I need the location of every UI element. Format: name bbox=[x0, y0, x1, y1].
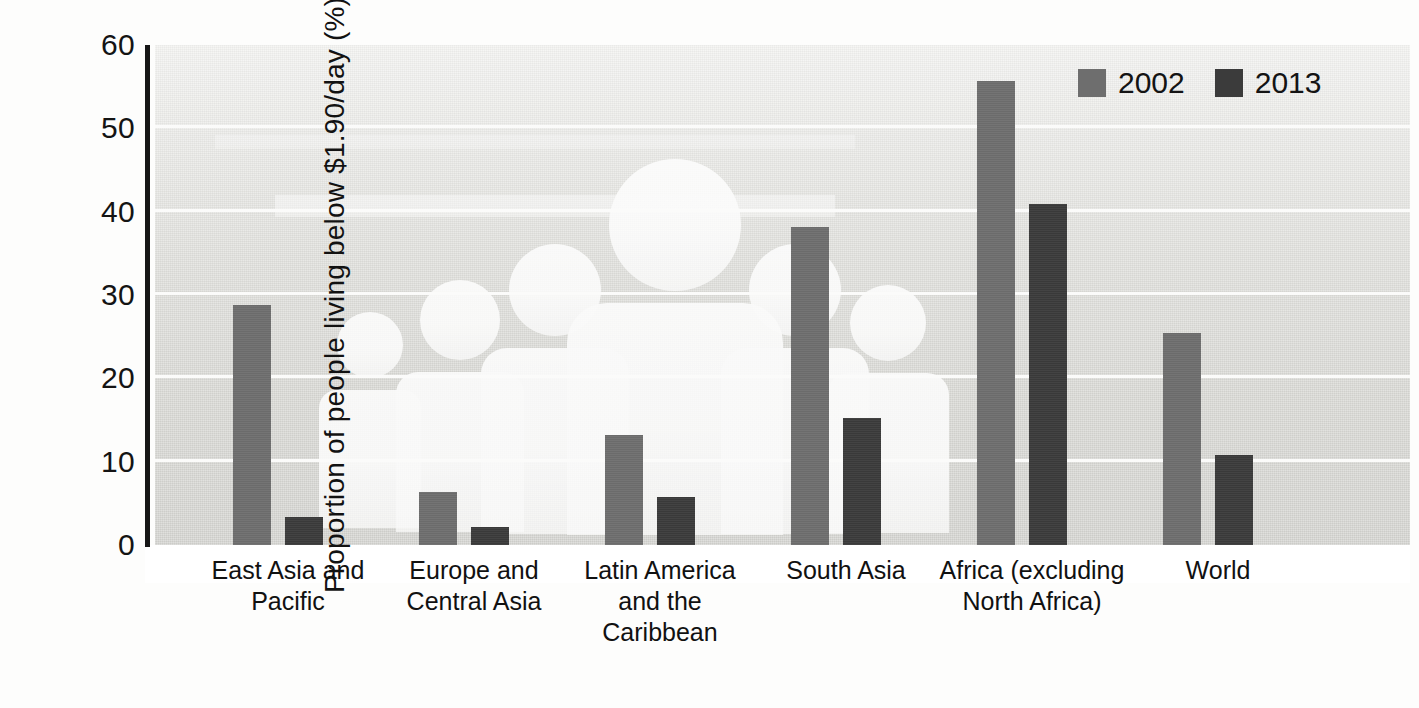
legend-label-2013: 2013 bbox=[1255, 66, 1322, 100]
bar-2002-east-asia-and-pacific bbox=[233, 305, 271, 545]
x-label-south-asia: South Asia bbox=[746, 555, 946, 586]
x-label-line: Africa (excluding bbox=[922, 555, 1142, 586]
y-tick-40: 40 bbox=[65, 195, 135, 229]
bar-2002-africa-excluding-north-africa bbox=[977, 81, 1015, 545]
x-label-line: Europe and bbox=[374, 555, 574, 586]
y-axis-line bbox=[145, 45, 150, 547]
x-label-line: North Africa) bbox=[922, 586, 1142, 617]
y-axis-title: Proportion of people living below $1.90/… bbox=[319, 0, 351, 593]
x-label-line: Pacific bbox=[188, 586, 388, 617]
x-label-line: Central Asia bbox=[374, 586, 574, 617]
x-label-line: South Asia bbox=[746, 555, 946, 586]
bar-2002-south-asia bbox=[791, 227, 829, 545]
y-tick-20: 20 bbox=[65, 361, 135, 395]
y-tick-0: 0 bbox=[65, 528, 135, 562]
x-axis-category-labels: East Asia and Pacific Europe and Central… bbox=[155, 555, 1410, 695]
bar-2013-latin-america-and-the-caribbean bbox=[657, 497, 695, 545]
bar-2013-world bbox=[1215, 455, 1253, 545]
y-tick-50: 50 bbox=[65, 111, 135, 145]
x-label-line: Latin America bbox=[560, 555, 760, 586]
x-label-line: World bbox=[1118, 555, 1318, 586]
legend-label-2002: 2002 bbox=[1118, 66, 1185, 100]
x-label-africa-excluding-north-africa: Africa (excluding North Africa) bbox=[922, 555, 1142, 617]
x-label-line: Caribbean bbox=[560, 617, 760, 648]
legend-item-2002[interactable]: 2002 bbox=[1078, 66, 1185, 100]
y-tick-30: 30 bbox=[65, 278, 135, 312]
legend-item-2013[interactable]: 2013 bbox=[1215, 66, 1322, 100]
bar-2002-latin-america-and-the-caribbean bbox=[605, 435, 643, 545]
x-label-world: World bbox=[1118, 555, 1318, 586]
x-label-line: East Asia and bbox=[188, 555, 388, 586]
x-label-east-asia-and-pacific: East Asia and Pacific bbox=[188, 555, 388, 617]
bar-2013-europe-and-central-asia bbox=[471, 527, 509, 545]
x-label-line: and the bbox=[560, 586, 760, 617]
bar-2013-africa-excluding-north-africa bbox=[1029, 204, 1067, 545]
x-label-latin-america-and-the-caribbean: Latin America and the Caribbean bbox=[560, 555, 760, 648]
bar-2002-europe-and-central-asia bbox=[419, 492, 457, 545]
chart-root: 60 50 40 30 20 10 0 Proportion of people… bbox=[0, 0, 1419, 708]
x-label-europe-and-central-asia: Europe and Central Asia bbox=[374, 555, 574, 617]
legend: 2002 2013 bbox=[1078, 66, 1322, 100]
y-tick-10: 10 bbox=[65, 445, 135, 479]
bar-2013-east-asia-and-pacific bbox=[285, 517, 323, 545]
bar-2002-world bbox=[1163, 333, 1201, 545]
bar-2013-south-asia bbox=[843, 418, 881, 545]
legend-swatch-2002-icon bbox=[1078, 69, 1106, 97]
plot-area: 60 50 40 30 20 10 0 Proportion of people… bbox=[155, 45, 1410, 545]
y-tick-60: 60 bbox=[65, 28, 135, 62]
legend-swatch-2013-icon bbox=[1215, 69, 1243, 97]
